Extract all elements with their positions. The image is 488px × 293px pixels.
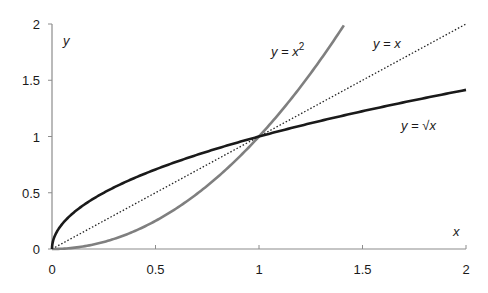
y-axis-label: y	[62, 33, 71, 48]
label-y-equals-x: y = x	[372, 36, 401, 51]
y-tick-label: 2	[33, 17, 40, 32]
x-tick-label: 2	[462, 262, 469, 277]
y-tick-label: 1.5	[22, 73, 40, 88]
chart: 00.511.52 00.511.52 y x y = x2 y = x y =…	[0, 0, 488, 293]
label-y-equals-sqrt-x: y = √x	[400, 118, 436, 133]
x-tick-label: 1.5	[353, 262, 371, 277]
y-tick-label: 0.5	[22, 186, 40, 201]
axes: 00.511.52 00.511.52	[22, 17, 470, 277]
x-tick-label: 0.5	[146, 262, 164, 277]
x-ticks: 00.511.52	[48, 245, 469, 277]
y-ticks: 00.511.52	[22, 17, 52, 257]
y-tick-label: 0	[33, 242, 40, 257]
x-axis-label: x	[452, 224, 460, 239]
x-tick-label: 0	[48, 262, 55, 277]
series-y-equals-sqrt-x	[52, 90, 466, 249]
label-y-equals-x-squared: y = x2	[270, 41, 305, 59]
series-y-equals-x-squared	[52, 25, 344, 249]
x-tick-label: 1	[255, 262, 262, 277]
y-tick-label: 1	[33, 130, 40, 145]
